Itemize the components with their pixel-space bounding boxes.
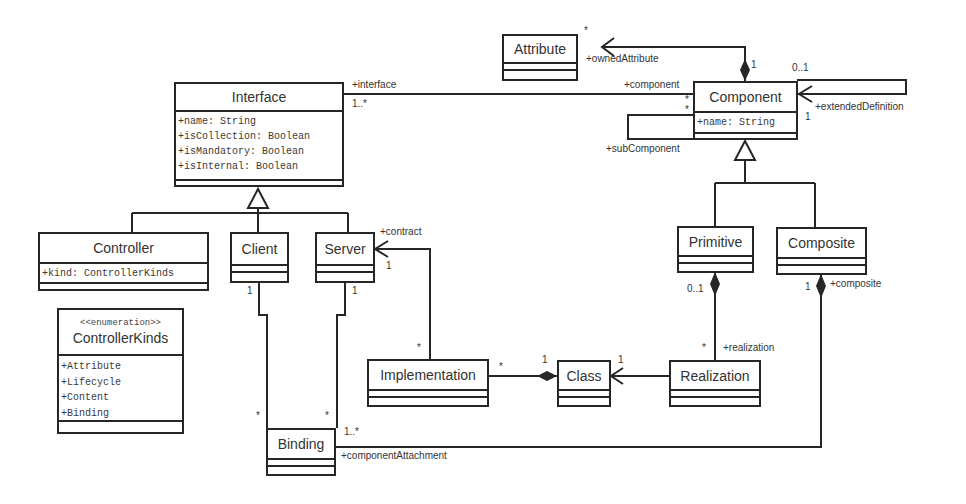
attribute: +name: String <box>178 114 340 129</box>
role-label: +contract <box>380 226 421 237</box>
multiplicity-label: 0..1 <box>792 62 809 73</box>
role-label: +realization <box>723 342 774 353</box>
multiplicity-label: 1 <box>751 59 757 70</box>
class-name: Composite <box>788 235 855 251</box>
multiplicity-label: * <box>685 104 689 115</box>
enum-literal: +Lifecycle <box>61 375 180 391</box>
class-name: Primitive <box>689 234 743 250</box>
attribute: +isMandatory: Boolean <box>178 144 340 159</box>
multiplicity-label: * <box>584 25 588 36</box>
attribute: +isInternal: Boolean <box>178 159 340 174</box>
class-class[interactable]: Class <box>557 360 611 407</box>
uml-class-diagram: Attribute Interface +name: String +isCol… <box>0 0 966 504</box>
class-realization[interactable]: Realization <box>669 360 761 407</box>
multiplicity-label: 1 <box>618 354 624 365</box>
enum-literal: +Content <box>61 390 180 406</box>
enumeration-controller-kinds[interactable]: <<enumeration>> ControllerKinds +Attribu… <box>57 308 184 434</box>
multiplicity-label: 1 <box>386 260 392 271</box>
multiplicity-label: 1 <box>352 285 358 296</box>
extended-definition-association <box>797 80 906 94</box>
class-name: Binding <box>278 436 325 452</box>
sub-component-association <box>628 115 693 139</box>
class-component[interactable]: Component +name: String <box>693 81 798 140</box>
class-binding[interactable]: Binding <box>266 428 336 476</box>
class-name: Component <box>709 89 781 105</box>
multiplicity-label: * <box>256 410 260 421</box>
generalization-arrow-icon <box>248 189 268 208</box>
class-composite[interactable]: Composite <box>776 227 867 275</box>
class-attribute[interactable]: Attribute <box>502 34 578 81</box>
multiplicity-label: * <box>702 342 706 353</box>
class-name: Realization <box>680 368 749 384</box>
class-implementation[interactable]: Implementation <box>367 359 489 407</box>
multiplicity-label: 1..* <box>344 426 359 437</box>
multiplicity-label: 1 <box>805 281 811 292</box>
class-name: Controller <box>93 240 154 256</box>
class-controller[interactable]: Controller +kind: ControllerKinds <box>38 232 209 291</box>
stereotype: <<enumeration>> <box>80 318 161 328</box>
composition-diamond-icon <box>740 59 750 81</box>
class-name: Implementation <box>380 367 476 383</box>
class-name: ControllerKinds <box>73 330 169 346</box>
multiplicity-label: 1 <box>805 111 811 122</box>
enum-literal: +Binding <box>61 406 180 422</box>
composition-diamond-icon <box>816 274 826 298</box>
client-binding-association <box>259 282 267 428</box>
role-label: +ownedAttribute <box>586 53 659 64</box>
role-label: +extendedDefinition <box>815 101 904 112</box>
role-label: +interface <box>352 79 396 90</box>
role-label: +componentAttachment <box>341 450 447 461</box>
multiplicity-label: * <box>325 410 329 421</box>
multiplicity-label: 1..* <box>352 98 367 109</box>
class-name: Server <box>324 241 365 257</box>
multiplicity-label: * <box>499 361 503 372</box>
role-label: +subComponent <box>606 143 680 154</box>
multiplicity-label: 1 <box>542 354 548 365</box>
class-name: Client <box>242 241 278 257</box>
multiplicity-label: * <box>417 342 421 353</box>
multiplicity-label: 1 <box>247 285 253 296</box>
attribute: +name: String <box>697 115 794 130</box>
multiplicity-label: 0..1 <box>687 283 704 294</box>
role-label: +composite <box>830 278 881 289</box>
class-name: Class <box>566 368 601 384</box>
class-name: Attribute <box>514 41 566 57</box>
attribute: +kind: ControllerKinds <box>42 266 205 281</box>
server-binding-association <box>337 282 345 428</box>
composition-diamond-icon <box>710 272 720 296</box>
role-label: +component <box>624 79 679 90</box>
class-client[interactable]: Client <box>230 232 289 283</box>
composition-diamond-icon <box>537 371 557 381</box>
contract-association <box>375 249 430 359</box>
class-server[interactable]: Server <box>315 232 375 283</box>
class-name: Interface <box>232 89 286 105</box>
attribute: +isCollection: Boolean <box>178 129 340 144</box>
class-interface[interactable]: Interface +name: String +isCollection: B… <box>174 82 344 187</box>
enum-literal: +Attribute <box>61 359 180 375</box>
generalization-arrow-icon <box>735 141 755 160</box>
class-primitive[interactable]: Primitive <box>677 226 754 273</box>
